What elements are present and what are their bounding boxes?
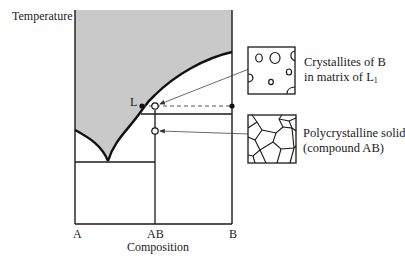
callout-crystallites-line2: in matrix of L1 <box>304 70 386 88</box>
x-axis-label: Composition <box>127 241 189 253</box>
x-tick-b: B <box>229 228 237 240</box>
callout-crystallites-line1: Crystallites of B <box>304 55 386 70</box>
x-tick-a: A <box>73 228 82 240</box>
callout-polycrystalline-line2: (compound AB) <box>303 141 405 156</box>
callout-crystallites-line2-text: in matrix of L <box>304 70 374 84</box>
liquid-region <box>75 10 232 161</box>
state-point-lower <box>152 128 158 134</box>
x-tick-ab: AB <box>147 228 164 240</box>
arrow-to-lower-point <box>160 131 249 134</box>
microstructure-polycrystalline-box <box>248 115 296 163</box>
liquidus-point <box>139 103 144 108</box>
microstructure-crystallites-box <box>248 47 295 94</box>
callout-polycrystalline: Polycrystalline solid (compound AB) <box>303 126 405 156</box>
b-point <box>229 103 234 108</box>
callout-polycrystalline-line1: Polycrystalline solid <box>303 126 405 141</box>
subscript-1: 1 <box>374 76 378 85</box>
callout-crystallites: Crystallites of B in matrix of L1 <box>304 55 386 88</box>
state-point-upper <box>152 103 158 109</box>
y-axis-label: Temperature <box>12 10 72 22</box>
liquid-point-label: L <box>130 96 137 108</box>
